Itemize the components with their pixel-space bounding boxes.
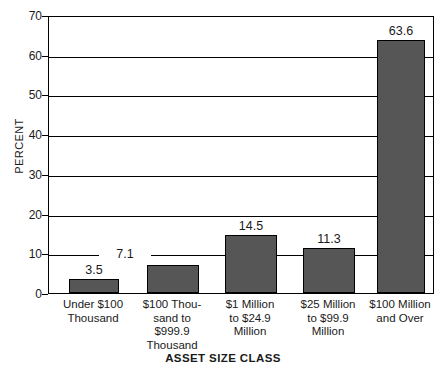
bar-value-label: 11.3 (291, 233, 367, 246)
plot-area: 3.57.114.511.363.6 (48, 16, 434, 294)
y-axis-tick-marks (0, 0, 48, 372)
bar-value-label: 63.6 (365, 25, 437, 38)
y-axis-tick-mark (42, 294, 48, 295)
gridline (49, 216, 433, 217)
gridline (49, 136, 433, 137)
x-axis-tick-label: $100 Thou- sand to $999.9 Thousand (128, 298, 216, 352)
gridline (49, 176, 433, 177)
bar-value-label: 14.5 (213, 220, 289, 233)
bar[interactable] (147, 265, 199, 293)
bar-value-label: 3.5 (57, 264, 131, 277)
x-axis-title: ASSET SIZE CLASS (0, 352, 446, 364)
bar-value-label: 7.1 (99, 248, 151, 261)
bar-chart: PERCENT 706050403020100 3.57.114.511.363… (0, 0, 446, 372)
gridline (49, 57, 433, 58)
gridline (49, 96, 433, 97)
x-axis-tick-label: $100 Million and Over (358, 298, 442, 325)
x-axis-tick-label: Under $100 Thousand (50, 298, 136, 325)
x-axis-tick-label: $1 Million to $24.9 Million (206, 298, 294, 339)
x-axis-tick-labels: Under $100 Thousand$100 Thou- sand to $9… (48, 298, 434, 354)
bar[interactable] (377, 40, 425, 293)
bar[interactable] (69, 279, 119, 293)
bar[interactable] (225, 235, 277, 293)
bar[interactable] (303, 248, 355, 293)
